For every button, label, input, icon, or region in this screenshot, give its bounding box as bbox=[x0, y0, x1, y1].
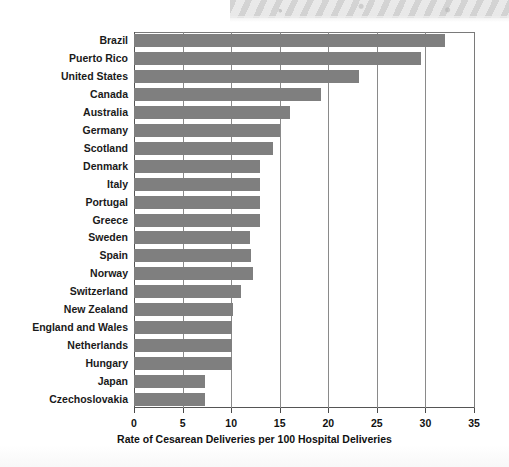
gridline-30 bbox=[425, 32, 426, 408]
bar bbox=[134, 267, 253, 280]
bar bbox=[134, 357, 232, 370]
category-label: Denmark bbox=[83, 161, 128, 172]
x-tick-label: 25 bbox=[371, 417, 383, 429]
category-label: Greece bbox=[92, 215, 128, 226]
category-label: Spain bbox=[99, 250, 128, 261]
bar bbox=[134, 214, 260, 227]
category-label: United States bbox=[61, 71, 128, 82]
bar bbox=[134, 160, 260, 173]
plot-area bbox=[134, 32, 474, 408]
bar bbox=[134, 231, 250, 244]
x-tick bbox=[231, 408, 232, 413]
category-axis-labels: BrazilPuerto RicoUnited StatesCanadaAust… bbox=[0, 0, 128, 467]
category-label: Netherlands bbox=[67, 340, 128, 351]
x-tick bbox=[474, 408, 475, 413]
x-tick bbox=[328, 408, 329, 413]
bar bbox=[134, 106, 290, 119]
bar bbox=[134, 178, 260, 191]
gridline-20 bbox=[328, 32, 329, 408]
bar bbox=[134, 142, 273, 155]
category-label: Czechoslovakia bbox=[49, 394, 128, 405]
category-label: Norway bbox=[90, 268, 128, 279]
cesarean-delivery-rate-bar-chart: BrazilPuerto RicoUnited StatesCanadaAust… bbox=[0, 0, 509, 467]
bar bbox=[134, 321, 232, 334]
category-label: Germany bbox=[82, 125, 128, 136]
gridline-25 bbox=[377, 32, 378, 408]
category-label: Puerto Rico bbox=[69, 53, 128, 64]
bar bbox=[134, 393, 205, 406]
category-label: Canada bbox=[90, 89, 128, 100]
x-tick-label: 20 bbox=[322, 417, 334, 429]
bar bbox=[134, 196, 260, 209]
bar bbox=[134, 124, 280, 137]
x-tick bbox=[183, 408, 184, 413]
x-tick bbox=[377, 408, 378, 413]
x-tick-label: 35 bbox=[468, 417, 480, 429]
x-tick-label: 15 bbox=[274, 417, 286, 429]
x-tick bbox=[425, 408, 426, 413]
category-label: Italy bbox=[107, 179, 128, 190]
x-tick bbox=[280, 408, 281, 413]
category-label: Scotland bbox=[84, 143, 128, 154]
category-label: New Zealand bbox=[64, 304, 128, 315]
bar bbox=[134, 52, 421, 65]
bar bbox=[134, 375, 205, 388]
bar bbox=[134, 88, 321, 101]
gridline-35 bbox=[474, 32, 475, 408]
category-label: Switzerland bbox=[70, 286, 128, 297]
bar bbox=[134, 285, 241, 298]
category-label: Hungary bbox=[85, 358, 128, 369]
x-tick-label: 5 bbox=[180, 417, 186, 429]
category-label: Australia bbox=[83, 107, 128, 118]
bar bbox=[134, 34, 445, 47]
scan-bottom-ghost bbox=[0, 445, 509, 467]
bar bbox=[134, 249, 251, 262]
plot-bottom-axis bbox=[134, 407, 474, 408]
category-label: England and Wales bbox=[32, 322, 128, 333]
category-label: Sweden bbox=[88, 232, 128, 243]
bar bbox=[134, 303, 233, 316]
category-label: Brazil bbox=[99, 35, 128, 46]
x-tick bbox=[134, 408, 135, 413]
bar bbox=[134, 70, 359, 83]
category-label: Portugal bbox=[85, 197, 128, 208]
plot-top-border bbox=[134, 32, 474, 33]
x-tick-label: 0 bbox=[131, 417, 137, 429]
x-tick-label: 30 bbox=[420, 417, 432, 429]
category-label: Japan bbox=[98, 376, 128, 387]
bar bbox=[134, 339, 232, 352]
x-axis-title: Rate of Cesarean Deliveries per 100 Hosp… bbox=[0, 433, 509, 445]
x-tick-label: 10 bbox=[225, 417, 237, 429]
